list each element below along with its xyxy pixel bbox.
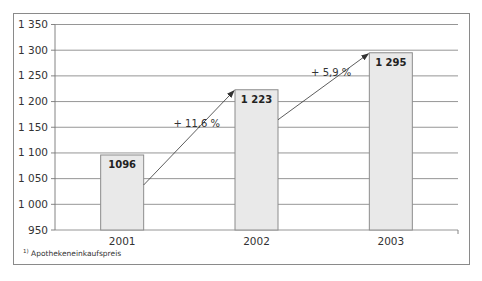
y-tick-label: 1 100 bbox=[18, 146, 48, 158]
x-tick-label: 2003 bbox=[377, 235, 404, 247]
bar-value-label: 1 295 bbox=[375, 57, 406, 68]
y-tick-label: 1 250 bbox=[18, 69, 48, 81]
bar-2002 bbox=[235, 90, 278, 230]
bar-value-label: 1096 bbox=[108, 159, 136, 170]
y-tick-label: 1 200 bbox=[18, 95, 48, 107]
growth-label: + 5,9 % bbox=[311, 67, 351, 78]
bars: 10961 2231 295 bbox=[101, 53, 413, 230]
x-tick-label: 2001 bbox=[109, 235, 136, 247]
y-axis: 9501 0001 0501 1001 1501 2001 2501 3001 … bbox=[18, 18, 55, 236]
bar-value-label: 1 223 bbox=[241, 94, 272, 105]
x-axis: 200120022003 bbox=[109, 230, 458, 247]
y-tick-label: 950 bbox=[28, 224, 48, 236]
footnote-text: Apothekeneinkaufspreis bbox=[31, 249, 121, 258]
y-tick-label: 1 150 bbox=[18, 121, 48, 133]
growth-arrow bbox=[144, 91, 234, 185]
footnote: 1) Apothekeneinkaufspreis bbox=[23, 248, 121, 258]
footnote-marker: 1) bbox=[23, 248, 29, 254]
x-tick-label: 2002 bbox=[243, 235, 270, 247]
y-tick-label: 1 300 bbox=[18, 44, 48, 56]
y-tick-label: 1 050 bbox=[18, 172, 48, 184]
y-tick-label: 1 000 bbox=[18, 198, 48, 210]
bar-chart: 9501 0001 0501 1001 1501 2001 2501 3001 … bbox=[0, 0, 482, 281]
growth-label: + 11,6 % bbox=[174, 118, 221, 129]
growth-arrow bbox=[278, 54, 368, 120]
bar-2003 bbox=[369, 53, 412, 230]
y-tick-label: 1 350 bbox=[18, 18, 48, 30]
